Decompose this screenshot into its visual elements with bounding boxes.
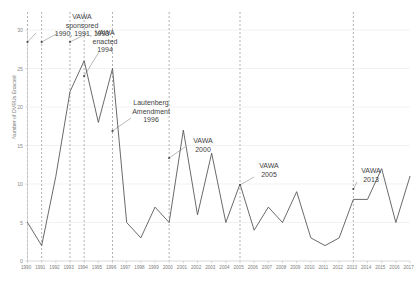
annotation-line-1: VAWA: [183, 137, 223, 146]
x-axis-tick-2015: 2015: [375, 265, 385, 270]
x-axis-tick-2006: 2006: [248, 265, 258, 270]
x-axis-tick-2010: 2010: [304, 265, 314, 270]
x-axis-tick-1996: 1996: [106, 265, 116, 270]
x-axis-tick-1990: 1990: [21, 265, 31, 270]
x-axis-tick-1991: 1991: [35, 265, 45, 270]
annotation-line-3: 1996: [118, 116, 184, 125]
x-axis-tick-1993: 1993: [64, 265, 74, 270]
x-axis-tick-1998: 1998: [134, 265, 144, 270]
y-axis-tick-0: 0: [11, 258, 23, 264]
x-axis-tick-2008: 2008: [276, 265, 286, 270]
x-axis-tick-2002: 2002: [191, 265, 201, 270]
y-axis-tick-5: 5: [11, 220, 23, 226]
annotation-leader-lines: [26, 33, 357, 190]
x-axis-tick-2005: 2005: [234, 265, 244, 270]
annotation-lautenberg-amendment: Lautenberg Amendment 1996: [118, 99, 184, 125]
chart-container: Number of DVRUs Enacted 051015202530 199…: [0, 0, 416, 290]
y-axis-tick-15: 15: [11, 143, 23, 149]
x-axis-tick-2001: 2001: [177, 265, 187, 270]
annotation-vawa-2013: VAWA 2013: [351, 167, 391, 184]
x-axis-tick-2011: 2011: [319, 265, 329, 270]
annotation-line-2: 2013: [351, 176, 391, 185]
annotation-line-1: VAWA: [249, 162, 289, 171]
x-axis-tick-1995: 1995: [92, 265, 102, 270]
annotation-line-1: Lautenberg: [118, 99, 184, 108]
y-axis-tick-20: 20: [11, 104, 23, 110]
annotation-line-1: VAWA: [24, 13, 140, 22]
annotation-vawa-2005: VAWA 2005: [249, 162, 289, 179]
x-axis-tick-2014: 2014: [361, 265, 371, 270]
annotation-line-2: 2000: [183, 146, 223, 155]
annotation-line-1: VAWA: [79, 29, 131, 38]
x-axis-tick-2009: 2009: [290, 265, 300, 270]
x-axis-tick-2007: 2007: [262, 265, 272, 270]
x-axis-tick-2012: 2012: [333, 265, 343, 270]
x-axis-tick-2004: 2004: [219, 265, 229, 270]
x-axis-tick-1999: 1999: [149, 265, 159, 270]
annotation-line-2: enacted: [79, 38, 131, 47]
y-axis-tick-30: 30: [11, 27, 23, 33]
gridlines: [28, 30, 411, 223]
x-axis-tick-2016: 2016: [389, 265, 399, 270]
x-axis-tick-1994: 1994: [78, 265, 88, 270]
annotation-line-1: VAWA: [351, 167, 391, 176]
x-axis-tick-2000: 2000: [163, 265, 173, 270]
x-axis-tick-1992: 1992: [49, 265, 59, 270]
annotation-line-2: 2005: [249, 171, 289, 180]
x-axis-tick-1997: 1997: [120, 265, 130, 270]
x-axis-tick-2003: 2003: [205, 265, 215, 270]
annotation-vawa-enacted: VAWA enacted 1994: [79, 29, 131, 55]
x-axis-tick-2013: 2013: [347, 265, 357, 270]
x-axis-tick-2017: 2017: [404, 265, 414, 270]
y-axis-tick-10: 10: [11, 181, 23, 187]
annotation-line-2: Amendment: [118, 108, 184, 117]
annotation-line-3: 1994: [79, 46, 131, 55]
annotation-vawa-2000: VAWA 2000: [183, 137, 223, 154]
y-axis-tick-25: 25: [11, 66, 23, 72]
